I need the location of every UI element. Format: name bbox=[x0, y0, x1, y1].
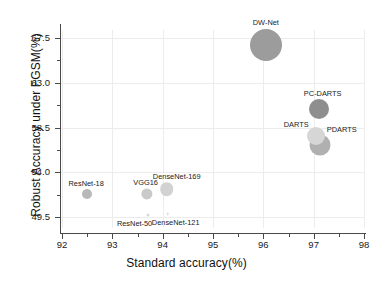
x-tick-minor bbox=[289, 234, 290, 237]
data-point-label: PC-DARTS bbox=[304, 90, 342, 98]
x-tick-label: 98 bbox=[349, 240, 373, 250]
data-point-label: DenseNet-121 bbox=[152, 219, 200, 227]
data-point-bubble[interactable] bbox=[160, 182, 174, 196]
gridline-horizontal bbox=[60, 217, 365, 218]
data-point-bubble[interactable] bbox=[307, 127, 325, 145]
gridline-horizontal bbox=[60, 172, 365, 173]
y-tick bbox=[55, 83, 60, 84]
gridline-vertical bbox=[213, 30, 214, 228]
x-tick-label: 92 bbox=[47, 240, 77, 250]
y-tick bbox=[55, 128, 60, 129]
x-tick-label: 95 bbox=[198, 240, 228, 250]
y-tick bbox=[55, 217, 60, 218]
y-tick-minor bbox=[57, 60, 60, 61]
data-point-label: PDARTS bbox=[327, 126, 357, 134]
y-tick bbox=[55, 172, 60, 173]
x-tick-label: 96 bbox=[248, 240, 278, 250]
data-point-bubble[interactable] bbox=[82, 189, 92, 199]
x-tick-minor bbox=[339, 234, 340, 237]
x-tick-label: 97 bbox=[299, 240, 329, 250]
x-tick-minor bbox=[238, 234, 239, 237]
x-tick-minor bbox=[188, 234, 189, 237]
data-point-label: ResNet-18 bbox=[68, 180, 103, 188]
data-point-label: ResNet-50 bbox=[117, 220, 152, 228]
data-point-bubble[interactable] bbox=[166, 213, 169, 216]
x-tick-minor bbox=[138, 234, 139, 237]
y-tick-minor bbox=[57, 150, 60, 151]
y-tick-minor bbox=[57, 195, 60, 196]
data-point-bubble[interactable] bbox=[250, 29, 282, 61]
y-axis-line bbox=[60, 24, 61, 234]
gridline-vertical bbox=[364, 30, 365, 228]
gridline-vertical bbox=[62, 30, 63, 228]
y-axis-title: Robust Accuracy under FGSM(%) bbox=[29, 25, 43, 225]
data-point-bubble[interactable] bbox=[309, 99, 329, 119]
gridline-vertical bbox=[163, 30, 164, 228]
x-tick-minor bbox=[87, 234, 88, 237]
gridline-vertical bbox=[112, 30, 113, 228]
data-point-label: DW-Net bbox=[253, 19, 279, 27]
y-tick bbox=[55, 38, 60, 39]
y-tick-minor bbox=[57, 105, 60, 106]
gridline-horizontal bbox=[60, 83, 365, 84]
x-tick-label: 93 bbox=[97, 240, 127, 250]
gridline-horizontal bbox=[60, 38, 365, 39]
scatter-chart: 9293949596979849.554.058.563.067.5 ResNe… bbox=[0, 0, 373, 287]
data-point-label: DenseNet-169 bbox=[153, 173, 201, 181]
x-tick-label: 94 bbox=[148, 240, 178, 250]
x-axis-title: Standard accuracy(%) bbox=[0, 256, 373, 270]
data-point-label: DARTS bbox=[284, 121, 309, 129]
